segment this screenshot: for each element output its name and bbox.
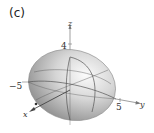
x-axis-label: x (23, 110, 28, 119)
y-tick-label-neg5: −5 (9, 81, 23, 91)
x-axis-arrow (29, 107, 36, 112)
z-axis-label: z (67, 19, 73, 28)
ellipsoid-diagram: z 4 −5 5 y x (0, 0, 154, 133)
x-tick-dot (35, 103, 38, 106)
y-tick-label-5: 5 (116, 102, 122, 112)
z-tick-label-4: 4 (61, 41, 67, 51)
y-axis-label: y (139, 100, 145, 109)
